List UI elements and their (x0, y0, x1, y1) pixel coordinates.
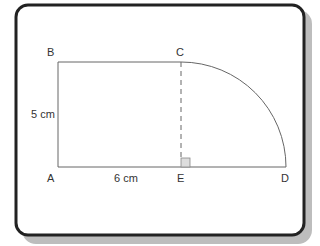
label-a: A (47, 172, 55, 184)
label-height: 5 cm (31, 108, 55, 120)
frame-border (16, 5, 304, 235)
label-width: 6 cm (114, 172, 138, 184)
right-angle-marker (181, 158, 190, 167)
label-e: E (177, 172, 184, 184)
label-c: C (176, 46, 184, 58)
diagram-canvas: B C A E D 5 cm 6 cm (0, 0, 320, 246)
label-b: B (47, 46, 54, 58)
label-d: D (281, 172, 289, 184)
